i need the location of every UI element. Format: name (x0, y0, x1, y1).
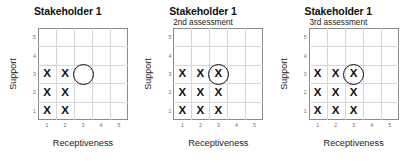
plot-area-2: XXXXXXXXX (173, 28, 263, 120)
y-axis-label-text: Support (143, 28, 153, 120)
gridline-vertical (245, 28, 246, 120)
x-axis-label: Receptiveness (38, 138, 128, 148)
stakeholder-assessment-figure: Stakeholder 1 Support Receptiveness XXXX… (0, 0, 406, 163)
x-mark: X (191, 65, 209, 83)
panel-title: Stakeholder 1 (0, 5, 135, 17)
panel-1: Stakeholder 1 Support Receptiveness XXXX… (0, 0, 135, 163)
x-mark: X (209, 102, 227, 120)
x-mark: X (345, 83, 363, 101)
panel-subtitle: 2nd assessment (135, 18, 270, 28)
x-mark: X (309, 65, 327, 83)
y-tick-label: 3 (28, 71, 36, 77)
x-mark: X (38, 83, 56, 101)
x-tick-label: 5 (253, 122, 256, 128)
panel-2: Stakeholder 1 2nd assessment Support Rec… (135, 0, 270, 163)
gridline-horizontal (309, 46, 399, 47)
x-tick-label: 4 (370, 122, 373, 128)
plot-area-3: XXXXXXXXX (309, 28, 399, 120)
x-mark: X (309, 83, 327, 101)
x-axis-label: Receptiveness (309, 138, 399, 148)
y-tick-label: 4 (163, 53, 171, 59)
x-tick-label: 1 (316, 122, 319, 128)
circle-marker (208, 64, 229, 85)
x-mark: X (56, 102, 74, 120)
circle-marker (73, 64, 94, 85)
x-tick-label: 4 (235, 122, 238, 128)
x-tick-label: 4 (100, 122, 103, 128)
panel-3: Stakeholder 1 3rd assessment Support Rec… (271, 0, 406, 163)
y-axis-label-text: Support (8, 28, 18, 120)
gridline-vertical (110, 28, 111, 120)
y-axis-label-text: Support (279, 28, 289, 120)
x-tick-label: 2 (64, 122, 67, 128)
x-tick-label: 3 (82, 122, 85, 128)
y-tick-label: 5 (28, 34, 36, 40)
y-tick-label: 2 (163, 89, 171, 95)
y-tick-label: 2 (299, 89, 307, 95)
y-tick-label: 5 (163, 34, 171, 40)
y-tick-label: 1 (299, 108, 307, 114)
x-mark: X (38, 102, 56, 120)
y-axis-label: Support (143, 0, 155, 28)
x-mark: X (38, 65, 56, 83)
x-mark: X (209, 83, 227, 101)
x-tick-label: 2 (199, 122, 202, 128)
y-tick-label: 3 (299, 71, 307, 77)
x-tick-label: 1 (181, 122, 184, 128)
x-mark: X (191, 83, 209, 101)
y-tick-label: 5 (299, 34, 307, 40)
x-mark: X (56, 65, 74, 83)
plot-area-1: XXXXXX (38, 28, 128, 120)
y-tick-label: 1 (28, 108, 36, 114)
x-mark: X (191, 102, 209, 120)
x-mark: X (173, 83, 191, 101)
x-mark: X (173, 102, 191, 120)
x-mark: X (56, 83, 74, 101)
circle-marker (343, 64, 364, 85)
panel-title: Stakeholder 1 (135, 5, 270, 17)
x-tick-label: 3 (352, 122, 355, 128)
y-tick-label: 1 (163, 108, 171, 114)
x-axis-label: Receptiveness (173, 138, 263, 148)
x-mark: X (327, 83, 345, 101)
x-mark: X (345, 102, 363, 120)
y-tick-label: 4 (299, 53, 307, 59)
x-tick-label: 1 (46, 122, 49, 128)
x-mark: X (327, 102, 345, 120)
y-axis-label: Support (8, 0, 20, 28)
y-tick-label: 3 (163, 71, 171, 77)
y-tick-label: 4 (28, 53, 36, 59)
x-tick-label: 3 (217, 122, 220, 128)
gridline-horizontal (173, 46, 263, 47)
y-axis-label: Support (279, 0, 291, 28)
gridline-vertical (381, 28, 382, 120)
x-mark: X (173, 65, 191, 83)
x-mark: X (327, 65, 345, 83)
x-tick-label: 5 (118, 122, 121, 128)
x-mark: X (309, 102, 327, 120)
x-tick-label: 5 (388, 122, 391, 128)
gridline-horizontal (38, 46, 128, 47)
y-tick-label: 2 (28, 89, 36, 95)
x-tick-label: 2 (334, 122, 337, 128)
